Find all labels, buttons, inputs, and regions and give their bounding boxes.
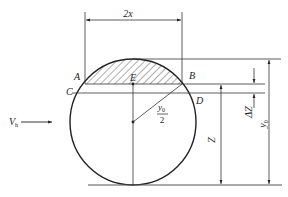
label-b: B (189, 70, 195, 81)
svg-text:y0: y0 (257, 120, 269, 128)
svg-text:2: 2 (160, 115, 165, 125)
y0-dimension: y0 (257, 60, 269, 184)
circle-segment-diagram: 2x A C E B D y0 2 Vh Z ΔZ y0 (0, 0, 288, 197)
z-dimension: Z (206, 85, 221, 184)
velocity-arrow: Vh (9, 116, 52, 128)
label-a: A (73, 71, 81, 82)
svg-text:Z: Z (206, 137, 217, 143)
label-c: C (66, 86, 73, 97)
svg-text:y0: y0 (157, 102, 165, 113)
svg-text:Vh: Vh (9, 116, 18, 128)
label-d: D (195, 95, 204, 106)
width-label: 2x (123, 8, 133, 19)
point-e-dot (132, 83, 135, 86)
svg-text:ΔZ: ΔZ (243, 106, 254, 119)
label-e: E (129, 72, 136, 83)
radius-label: y0 2 (157, 102, 168, 125)
